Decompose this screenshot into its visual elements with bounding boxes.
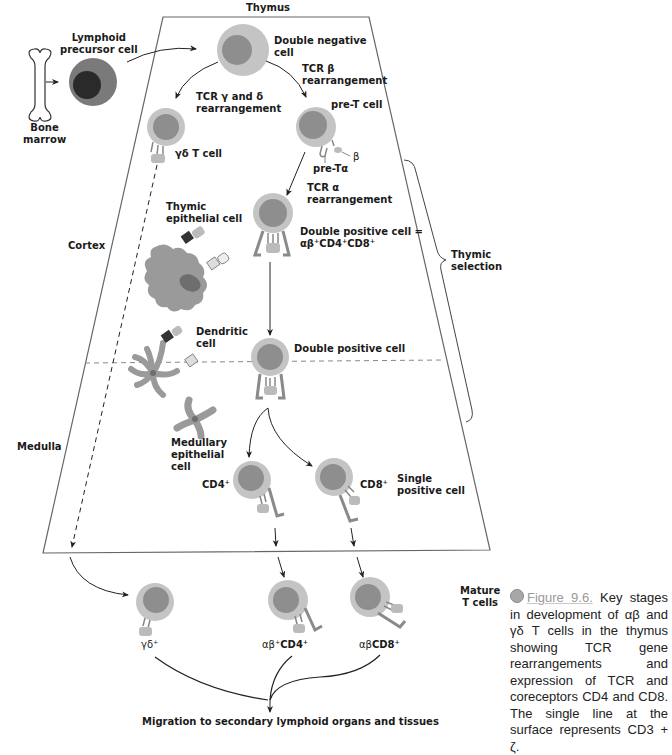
thymus-title: Thymus <box>246 2 290 14</box>
pre-t-alpha-label: pre-Tα <box>313 163 348 175</box>
single-positive-label: Single positive cell <box>397 473 465 497</box>
double-positive-medulla-label: Double positive cell <box>294 343 405 355</box>
mature-gd-t-cell <box>136 583 174 636</box>
dendritic-cell <box>131 343 177 395</box>
figure-caption: Figure 9.6. Key stages in development of… <box>510 589 668 755</box>
double-positive-cell-medulla <box>251 338 289 398</box>
pre-t-cell-label: pre-T cell <box>331 99 382 111</box>
cd4-single-label: CD4⁺ <box>202 479 230 491</box>
bone-marrow-label: Bone marrow <box>23 122 66 146</box>
double-positive-cell-cortex <box>253 193 293 255</box>
medullary-epithelial-cell <box>177 400 213 436</box>
double-positive-cortex-label: Double positive cell = αβ⁺CD4⁺CD8⁺ <box>300 226 423 250</box>
double-negative-label: Double negative cell <box>274 35 366 59</box>
thymic-selection-brace <box>404 160 472 422</box>
migration-label: Migration to secondary lymphoid organs a… <box>142 716 439 728</box>
gd-t-cell-label: γδ T cell <box>175 148 222 160</box>
figure-bullet-icon <box>510 589 524 603</box>
medulla-label: Medulla <box>17 441 62 453</box>
mature-ab-cd4-t-cell <box>268 580 322 633</box>
mature-ab-cd4-label: αβ⁺CD4⁺ <box>262 639 308 651</box>
cd8-single-label: CD8⁺ <box>360 479 388 491</box>
thymic-epithelial-cell <box>144 225 230 311</box>
figure-reference-link[interactable]: Figure 9.6. <box>527 590 593 605</box>
lymphoid-precursor-label: Lymphoid precursor cell <box>60 32 138 56</box>
mature-ab-cd8-label: αβCD8⁺ <box>359 639 400 651</box>
lymphoid-precursor-cell <box>69 58 117 106</box>
mature-ab-cd8-t-cell <box>350 577 405 627</box>
cd8-single-positive-cell <box>315 458 360 521</box>
mature-t-cells-label: Mature T cells <box>460 585 500 609</box>
thymic-selection-label: Thymic selection <box>451 249 502 273</box>
tcr-gamma-delta-step-label: TCR γ and δ rearrangement <box>196 91 281 115</box>
cortex-label: Cortex <box>68 240 105 252</box>
caption-text: Key stages in development of αβ and γδ T… <box>510 590 668 754</box>
tcr-beta-step-label: TCR β rearrangement <box>302 63 387 87</box>
double-negative-cell <box>217 24 269 76</box>
bone-icon <box>29 49 51 121</box>
cd4-single-positive-cell <box>233 461 284 516</box>
mature-gd-label: γδ⁺ <box>141 639 158 651</box>
dendritic-cell-label: Dendritic cell <box>196 326 248 350</box>
gd-dashed-path <box>72 165 157 547</box>
beta-chain-label: β <box>353 151 359 163</box>
thymic-epithelial-label: Thymic epithelial cell <box>166 201 242 225</box>
medullary-epithelial-label: Medullary epithelial cell <box>171 437 227 473</box>
tcr-alpha-step-label: TCR α rearrangement <box>307 182 392 206</box>
